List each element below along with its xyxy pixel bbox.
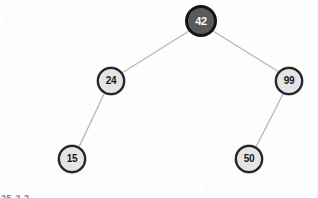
tree-edges [0,0,318,198]
tree-node-right[interactable]: 99 [275,67,303,95]
tree-diagram-canvas: 42 24 99 15 50 25 2.2 [0,0,318,198]
edge-left-leftleft [79,94,104,147]
edge-root-right [213,31,279,72]
tree-node-label: 50 [244,154,255,164]
tree-node-right-left[interactable]: 50 [235,145,263,173]
tree-node-label: 99 [284,76,295,86]
tree-node-root[interactable]: 42 [185,5,217,37]
tree-node-label: 24 [106,76,117,86]
tree-node-left[interactable]: 24 [97,67,125,95]
tree-node-label: 42 [195,16,207,27]
edge-right-rightleft [256,94,283,147]
tree-node-label: 15 [67,154,78,164]
figure-caption: 25 2.2 [1,193,30,198]
tree-node-left-left[interactable]: 15 [58,145,86,173]
edge-root-left [122,31,189,73]
